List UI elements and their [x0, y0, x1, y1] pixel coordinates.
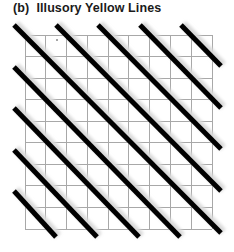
diagonal-line — [181, 25, 221, 66]
diagonal-line — [14, 191, 56, 237]
diagonal-line — [56, 25, 221, 191]
illusion-diagram — [0, 0, 234, 252]
diagonal-line — [140, 25, 221, 108]
stray-dot — [56, 39, 58, 41]
diagonal-line — [14, 150, 97, 237]
